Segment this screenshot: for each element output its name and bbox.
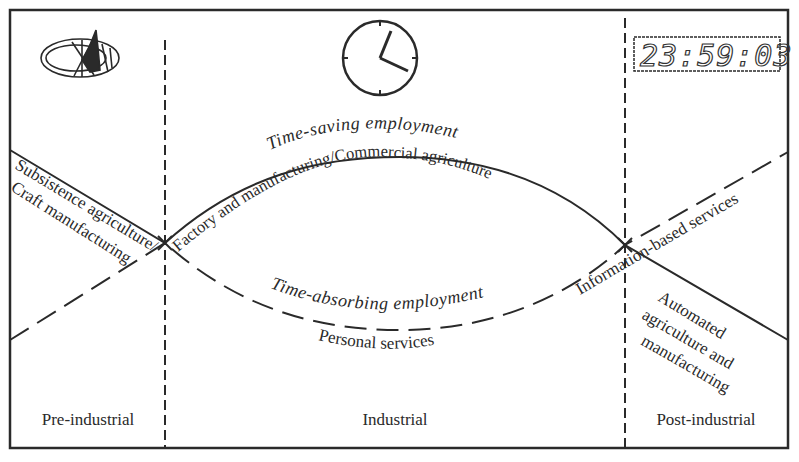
digital-clock-icon: 23:59:03 xyxy=(634,37,793,73)
employment-transition-diagram: 23:59:03 Time-saving employment Time-abs… xyxy=(0,0,799,462)
digital-clock-time: 23:59:03 xyxy=(640,38,793,73)
era-industrial: Industrial xyxy=(362,410,427,429)
label-factory-commercial: Factory and manufacturing/Commercial agr… xyxy=(169,141,496,255)
time-absorbing-title: Time-absorbing employment xyxy=(269,273,486,313)
era-pre-industrial: Pre-industrial xyxy=(42,410,135,429)
label-information-services: Information-based services xyxy=(572,189,741,299)
sundial-icon xyxy=(41,30,119,77)
era-post-industrial: Post-industrial xyxy=(656,410,755,429)
analog-clock-icon xyxy=(343,21,417,95)
